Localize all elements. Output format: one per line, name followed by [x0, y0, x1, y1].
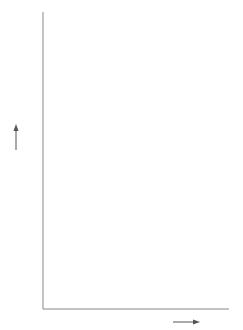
y-arrow-icon — [14, 124, 19, 150]
axes — [43, 12, 229, 309]
x-arrow-icon — [173, 320, 200, 325]
waveform-chart — [0, 0, 243, 330]
